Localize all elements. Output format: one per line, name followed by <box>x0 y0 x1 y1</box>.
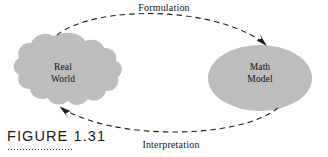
interpretation-arrowhead <box>60 107 71 119</box>
formulation-edge-label: Formulation <box>0 2 328 13</box>
figure-container: Real World Math Model Formulation Interp… <box>0 0 328 157</box>
real-world-label: Real World <box>27 62 99 85</box>
formulation-arrow <box>57 14 265 44</box>
figure-caption: FIGURE 1.31 <box>7 128 106 144</box>
caption-dotted-rule <box>7 148 73 151</box>
math-model-label: Math Model <box>224 62 296 85</box>
